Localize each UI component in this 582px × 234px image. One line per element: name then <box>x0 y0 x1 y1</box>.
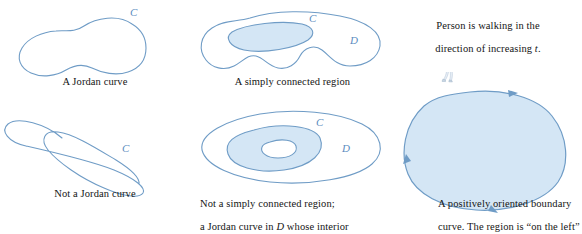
curve-label-c: C <box>130 6 138 18</box>
figure-jordan-curves-and-orientation: C A Jordan curve C Not a Jordan curve C … <box>0 0 582 234</box>
note-line-2-post: . <box>538 43 541 54</box>
jordan-curve-c-filled-path <box>228 22 312 51</box>
person-shoe-front <box>449 80 453 82</box>
curve-label-c: C <box>309 12 317 24</box>
note-walking-direction: Person is walking in the direction of in… <box>400 8 576 54</box>
caption-line-1: Not a simply connected region; <box>200 198 335 209</box>
jordan-curve-path <box>19 18 146 76</box>
page-bleed-text <box>0 229 582 234</box>
person-leg-front <box>450 72 453 81</box>
caption-line-1: A positively oriented boundary <box>438 198 571 209</box>
region-label-d: D <box>341 142 350 154</box>
person-leg-back <box>444 72 449 80</box>
curve-label-c: C <box>122 142 130 154</box>
region-label-d: D <box>349 34 358 46</box>
self-intersecting-curve-path <box>5 121 144 196</box>
caption-simply-connected: A simply connected region <box>190 76 395 88</box>
annulus-region-path <box>227 126 321 171</box>
walking-person-icon <box>442 72 455 82</box>
caption-jordan-curve: A Jordan curve <box>10 76 180 88</box>
caption-not-simply-connected: Not a simply connected region; a Jordan … <box>200 186 395 234</box>
note-line-1: Person is walking in the <box>436 20 539 31</box>
caption-not-jordan-curve: Not a Jordan curve <box>10 188 180 200</box>
caption-oriented-boundary: A positively oriented boundary curve. Th… <box>438 186 582 234</box>
note-line-2-pre: direction of increasing <box>435 43 535 54</box>
curve-label-c: C <box>316 116 324 128</box>
